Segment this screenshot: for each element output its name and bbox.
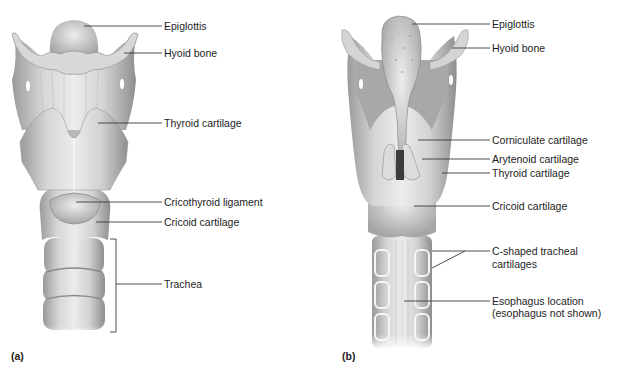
panel-tag-a: (a): [11, 350, 24, 362]
label-epiglottis-b: Epiglottis: [492, 18, 535, 30]
label-trachea-a: Trachea: [164, 278, 202, 290]
panel-b-drawing: [342, 16, 469, 350]
label-esophagus-location-b: Esophagus location: [492, 295, 584, 307]
label-cartilages-b: cartilages: [492, 258, 537, 270]
anatomy-illustration: [0, 0, 617, 378]
label-thyroid-cartilage-a: Thyroid cartilage: [164, 117, 242, 129]
panel-tag-b: (b): [342, 350, 355, 362]
label-arytenoid-cartilage-b: Arytenoid cartilage: [492, 153, 579, 165]
label-cricothyroid-ligament-a: Cricothyroid ligament: [164, 196, 263, 208]
label-hyoid-bone-a: Hyoid bone: [164, 47, 217, 59]
label-cricoid-cartilage-a: Cricoid cartilage: [164, 216, 239, 228]
label-cricoid-cartilage-b: Cricoid cartilage: [492, 200, 567, 212]
larynx-figure: Epiglottis Hyoid bone Thyroid cartilage …: [0, 0, 617, 378]
trachea-a: [40, 238, 108, 340]
label-corniculate-cartilage-b: Corniculate cartilage: [492, 134, 588, 146]
label-c-shaped-tracheal-b: C-shaped tracheal: [492, 245, 578, 257]
label-hyoid-bone-b: Hyoid bone: [492, 42, 545, 54]
label-thyroid-cartilage-b: Thyroid cartilage: [492, 167, 570, 179]
label-epiglottis-a: Epiglottis: [164, 20, 207, 32]
label-esophagus-not-shown-b: (esophagus not shown): [492, 307, 601, 319]
panel-a-drawing: [12, 20, 138, 340]
